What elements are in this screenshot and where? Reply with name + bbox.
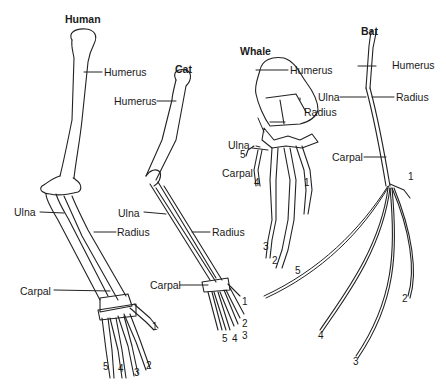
- bat-carpal-label: Carpal: [332, 152, 363, 163]
- human-ulna-label: Ulna: [14, 207, 36, 218]
- whale-digit-5: 5: [240, 150, 246, 160]
- whale-digit-4: 4: [254, 178, 260, 188]
- human-radius-label: Radius: [117, 227, 150, 238]
- whale-digit-2: 2: [272, 256, 278, 266]
- leader-lines: [40, 66, 394, 291]
- cat-carpal-label: Carpal: [150, 280, 181, 291]
- title-cat: Cat: [175, 64, 192, 75]
- human-digit-5: 5: [103, 362, 109, 372]
- bat-digit-1: 1: [408, 172, 414, 182]
- bat-humerus-label: Humerus: [392, 60, 435, 71]
- human-digit-1: 1: [152, 322, 158, 332]
- cat-digit-3: 3: [242, 331, 248, 341]
- bat-digit-2: 2: [402, 294, 408, 304]
- whale-radius-label: Radius: [304, 107, 337, 118]
- whale-humerus-label: Humerus: [290, 65, 333, 76]
- cat-radius-label: Radius: [212, 227, 245, 238]
- human-digit-3: 3: [134, 368, 140, 378]
- cat-digit-2: 2: [242, 319, 248, 329]
- cat-digit-5: 5: [222, 334, 228, 344]
- cat-humerus-label: Humerus: [114, 96, 157, 107]
- title-whale: Whale: [240, 46, 271, 57]
- cat-digit-1: 1: [242, 297, 248, 307]
- whale-digit-1: 1: [304, 178, 310, 188]
- bat-digit-5: 5: [295, 266, 301, 276]
- title-bat: Bat: [361, 26, 378, 37]
- whale-ulna-label: Ulna: [228, 140, 250, 151]
- human-carpal-label: Carpal: [20, 286, 51, 297]
- bat-digit-4: 4: [318, 331, 324, 341]
- whale-limb: [246, 58, 318, 269]
- human-limb: [41, 29, 158, 378]
- bat-ulna-label: Ulna: [318, 92, 340, 103]
- title-human: Human: [65, 14, 101, 25]
- human-digit-4: 4: [118, 364, 124, 374]
- whale-digit-3: 3: [263, 242, 269, 252]
- human-humerus-label: Humerus: [104, 67, 147, 78]
- bat-radius-label: Radius: [396, 92, 429, 103]
- limb-drawings: [0, 0, 446, 386]
- bat-limb: [264, 30, 413, 358]
- cat-ulna-label: Ulna: [118, 208, 140, 219]
- cat-digit-4: 4: [232, 334, 238, 344]
- bat-digit-3: 3: [353, 357, 359, 367]
- human-digit-2: 2: [146, 361, 152, 371]
- whale-carpal-label: Carpal: [222, 168, 253, 179]
